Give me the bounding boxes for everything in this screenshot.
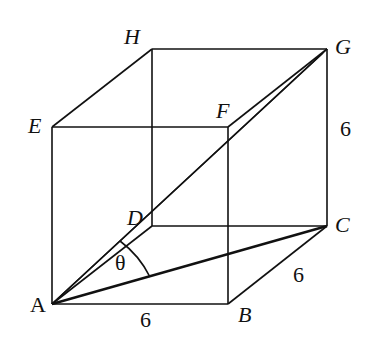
edge-fg [228,49,327,127]
label-h: H [123,24,141,49]
edge-bc [228,226,327,304]
cube-diagram: A B C D E F G H θ 6 6 6 [0,0,373,342]
label-f: F [215,98,230,123]
label-b: B [238,302,251,327]
label-theta: θ [115,250,126,275]
edge-da [52,226,152,304]
edge-he [52,49,152,127]
label-length-ab: 6 [140,307,151,332]
label-c: C [335,212,350,237]
label-a: A [30,292,46,317]
label-e: E [27,113,42,138]
label-g: G [335,34,351,59]
label-length-cg: 6 [340,116,351,141]
label-d: D [126,205,143,230]
label-length-bc: 6 [293,262,304,287]
